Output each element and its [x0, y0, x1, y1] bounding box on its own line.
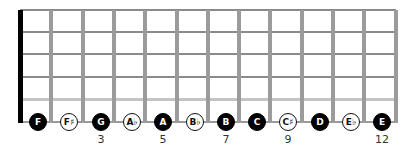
fret-1 [49, 10, 53, 123]
note-natural-fret-3: G [92, 113, 110, 131]
fret-number-9: 9 [273, 133, 303, 146]
note-natural-fret-8: C [248, 113, 266, 131]
fret-number-3: 3 [86, 133, 116, 146]
fret-8 [268, 10, 272, 123]
fret-12 [394, 10, 398, 123]
note-natural-fret-12: E [373, 113, 391, 131]
fret-3 [112, 10, 116, 123]
fret-number-5: 5 [148, 133, 178, 146]
note-natural-fret-10: D [311, 113, 329, 131]
note-accidental-fret-9: C♯ [279, 113, 297, 131]
fret-2 [81, 10, 85, 123]
fret-7 [237, 10, 241, 123]
fret-11 [362, 10, 366, 123]
note-natural-fret-1: F [29, 113, 47, 131]
note-accidental-fret-2: F♯ [60, 113, 78, 131]
note-accidental-fret-4: A♭ [123, 113, 141, 131]
fret-9 [300, 10, 304, 123]
note-natural-fret-5: A [154, 113, 172, 131]
fret-number-7: 7 [211, 133, 241, 146]
nut [18, 10, 23, 123]
fret-10 [331, 10, 335, 123]
note-accidental-fret-11: E♭ [342, 113, 360, 131]
fret-5 [175, 10, 179, 123]
note-natural-fret-7: B [217, 113, 235, 131]
note-accidental-fret-6: B♭ [186, 113, 204, 131]
fretboard: FF♯GA♭AB♭BCC♯DE♭E 357912 [0, 0, 410, 154]
fret-4 [143, 10, 147, 123]
fret-number-12: 12 [367, 133, 397, 146]
fret-6 [206, 10, 210, 123]
